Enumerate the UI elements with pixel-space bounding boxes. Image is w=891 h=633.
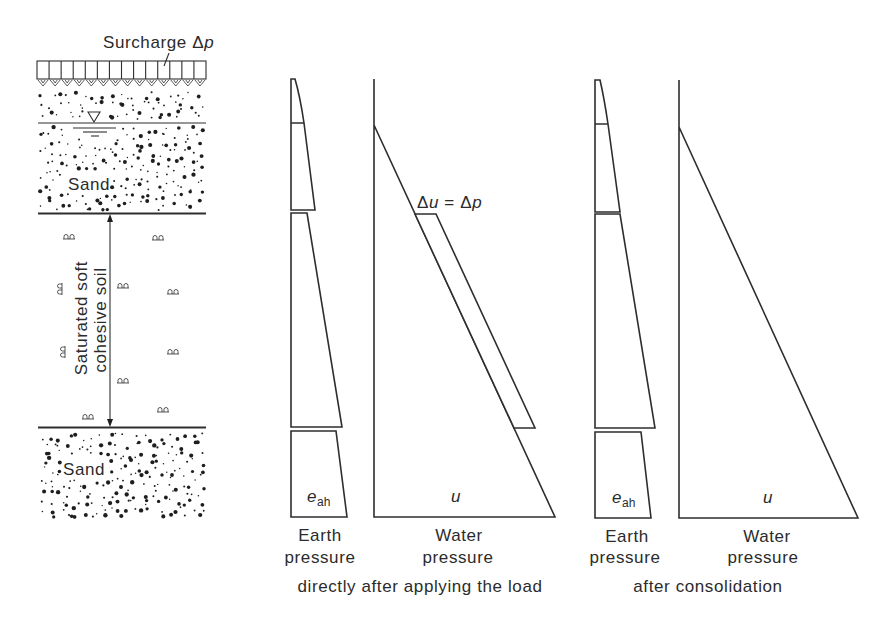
sand-grain [73,515,77,519]
sand-grain [160,473,163,476]
sand-grain [63,502,65,504]
sand-grain [120,185,122,187]
sand-grain [125,187,127,189]
sand-grain [139,508,143,512]
sand-grain [137,441,141,445]
sand-grain [120,458,122,460]
sand-grain [162,442,165,445]
earth-pressure-title-line1: Earth [298,526,342,545]
sand-grain [139,473,143,477]
sand-grain [127,157,128,158]
sand-grain [169,498,170,499]
sand-grain [93,167,97,171]
earth-pressure-clay [595,214,655,428]
sand-grain [56,170,58,172]
sand-grain [51,153,53,155]
sand-grain [185,141,187,143]
sand-grain [61,129,63,131]
hatch-mark [50,80,60,86]
sand-grain [47,452,51,456]
sand-grain [73,155,77,159]
sand-grain [162,144,164,146]
sand-grain [62,135,63,136]
sand-grain [74,91,78,95]
sand-grain [145,507,148,510]
sand-grain [163,133,165,135]
sand-grain [138,463,140,465]
sand-grain [133,184,135,186]
sand-grain [39,133,42,136]
sand-grain [177,502,181,506]
earth-pressure-upper-sand [291,79,315,210]
sand-grain [192,160,196,164]
earth-symbol-e: e [612,488,622,507]
sand-grain [163,463,165,465]
sand-grain [188,190,192,194]
sand-grain [49,171,51,173]
sand-grain [100,100,104,104]
sand-grain [80,486,82,488]
sand-grain [99,443,103,447]
sand-grain [58,92,62,96]
sand-grain [170,473,174,477]
sand-grain [71,452,73,454]
sand-grain [119,160,121,162]
sand-grain [114,153,118,157]
sand-grain [102,159,106,163]
sand-grain [68,514,70,516]
figure-canvas: Surcharge Δp Sand Saturated soft cohesiv… [0,0,891,633]
sand-grain [49,438,52,441]
annotation-delta: Δ [417,193,429,212]
sand-grain [88,207,91,210]
sand-grain [176,454,178,456]
clay-label-line2: cohesive soil [91,267,110,372]
sand-grain [113,195,116,198]
hatch-mark [135,80,145,86]
sand-grain [61,204,65,208]
water-table-icon [38,112,206,136]
sand-grain [169,149,171,151]
sand-grain [66,165,68,167]
sand-grain [145,199,149,203]
sand-grain [156,97,160,101]
sand-grain [151,154,155,158]
sand-grain [52,486,53,487]
sand-grain [156,446,158,448]
sand-grain [145,435,147,437]
hatch-mark [123,80,133,86]
sand-grain [155,490,157,492]
sand-grain [90,97,93,100]
sand-grain [86,448,88,450]
hatch-mark [171,80,181,86]
sand-grain [180,186,182,188]
sand-grain [183,475,185,477]
sand-grain [65,154,67,156]
sand-grain [110,433,114,437]
sand-grain [179,468,180,469]
sand-grain [147,170,149,172]
sand-grain [121,94,122,95]
sand-grain [130,202,131,203]
sand-grain [177,126,181,130]
sand-grain [47,162,49,164]
clay-symbol-icon [58,283,63,295]
sand-grain [95,102,97,104]
water-pressure-title-line2: pressure [728,548,799,567]
sand-grain [44,461,47,464]
sand-grain [169,484,171,486]
sand-grain [41,501,43,503]
sand-grain [157,162,160,165]
sand-grain [180,506,182,508]
sand-grain [134,508,136,510]
sand-grain [131,193,134,196]
sand-grain [101,505,102,506]
sand-grain [102,484,104,486]
sand-grain [172,202,176,206]
sand-grain [143,483,145,485]
sand-grain [156,176,158,178]
sand-grain [99,149,101,151]
sand-grain [125,492,129,496]
sand-grain [124,509,128,513]
upper-sand-dots [38,91,205,212]
sand-grain [131,98,133,100]
